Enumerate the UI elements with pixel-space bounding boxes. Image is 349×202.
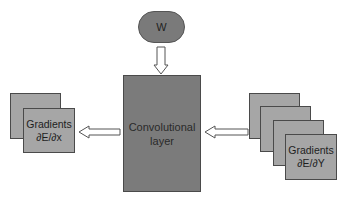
arrow-left-icon: [205, 126, 249, 138]
convolutional-layer-node: Convolutional layer: [123, 75, 201, 192]
layer-label-line2: layer: [129, 134, 196, 148]
arrow-left-icon: [79, 126, 121, 138]
arrow-down-icon: [154, 47, 168, 75]
weight-node-label: W: [156, 21, 166, 33]
output-gradients-line1: Gradients: [26, 118, 72, 131]
input-gradients-line1: Gradients: [288, 144, 334, 157]
output-gradients-node: Gradients ∂E/∂x: [23, 108, 75, 153]
input-gradients-line2: ∂E/∂Y: [297, 157, 324, 170]
layer-label-line1: Convolutional: [129, 120, 196, 134]
weight-node: W: [138, 11, 185, 43]
input-gradients-node: Gradients ∂E/∂Y: [285, 134, 337, 180]
output-gradients-line2: ∂E/∂x: [36, 131, 62, 144]
